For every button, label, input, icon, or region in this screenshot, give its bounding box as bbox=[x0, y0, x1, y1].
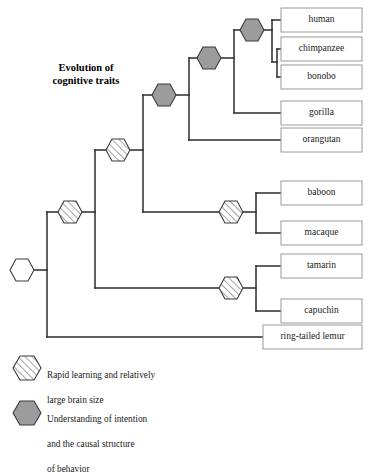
legend-item-0-line-1: Rapid learning and relatively bbox=[47, 369, 155, 381]
figure-title-line-2: cognitive traits bbox=[27, 74, 145, 87]
legend-item-1-line-2: and the causal structure bbox=[47, 438, 147, 450]
taxon-box-baboon[interactable] bbox=[281, 181, 362, 205]
node-great-ape-gray-hexagon[interactable] bbox=[197, 47, 221, 69]
taxon-box-macaque[interactable] bbox=[281, 221, 362, 245]
node-panhomo-gray-hexagon[interactable] bbox=[240, 19, 264, 41]
taxon-boxes bbox=[263, 8, 362, 349]
node-cercopithecoid-hatched-hexagon[interactable] bbox=[219, 201, 243, 223]
taxon-box-ring-tailed-lemur[interactable] bbox=[263, 325, 362, 349]
taxon-box-gorilla[interactable] bbox=[281, 101, 362, 125]
legend-hatched-hexagon-icon bbox=[13, 356, 41, 380]
legend-item-1-line-3: of behavior bbox=[47, 463, 147, 475]
taxon-box-capuchin[interactable] bbox=[281, 299, 362, 323]
figure-title: Evolution of cognitive traits bbox=[27, 61, 145, 88]
node-catarrhine-hatched-hexagon[interactable] bbox=[106, 139, 130, 161]
figure-title-line-1: Evolution of bbox=[27, 61, 145, 74]
node-platyrrhine-hatched-hexagon[interactable] bbox=[219, 277, 243, 299]
legend-item-1-line-1: Understanding of intention bbox=[47, 413, 147, 425]
legend-markers bbox=[13, 356, 41, 425]
taxon-box-orangutan[interactable] bbox=[281, 128, 362, 152]
node-root-white-hexagon[interactable] bbox=[10, 259, 34, 281]
taxon-box-tamarin[interactable] bbox=[281, 254, 362, 278]
taxon-box-human[interactable] bbox=[281, 8, 362, 32]
node-hominoid-gray-hexagon[interactable] bbox=[152, 84, 176, 106]
node-haplorhine-hatched-hexagon[interactable] bbox=[58, 201, 82, 223]
taxon-box-chimpanzee[interactable] bbox=[281, 37, 362, 61]
taxon-box-bonobo[interactable] bbox=[281, 65, 362, 89]
legend-gray-hexagon-icon bbox=[13, 401, 41, 425]
legend-item-1-text: Understanding of intention and the causa… bbox=[47, 401, 147, 476]
